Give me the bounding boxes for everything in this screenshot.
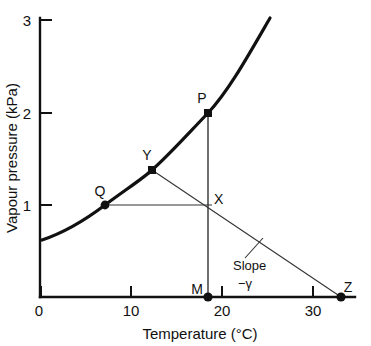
x-tick-label-10: 10 — [123, 302, 140, 319]
marker-point-Q — [101, 201, 110, 210]
x-tick-label-20: 20 — [214, 302, 231, 319]
y-tick-label-3: 3 — [23, 12, 31, 29]
point-label-M: M — [191, 281, 203, 297]
point-label-Y: Y — [142, 147, 152, 163]
y-axis-title: Vapour pressure (kPa) — [3, 83, 20, 233]
slope-leader-line — [245, 238, 263, 258]
y-tick-label-2: 2 — [23, 105, 31, 122]
chart-canvas: 3 2 1 0 10 20 30 Temperature (°C) Vapour… — [0, 0, 371, 346]
x-axis-title: Temperature (°C) — [142, 325, 257, 342]
slope-annotation-line1: Slope — [233, 258, 266, 273]
slope-annotation-line2: −γ — [238, 276, 253, 291]
slope-annotation: Slope −γ — [233, 258, 266, 291]
vapour-pressure-chart: 3 2 1 0 10 20 30 Temperature (°C) Vapour… — [0, 0, 371, 346]
point-label-X: X — [214, 191, 224, 207]
point-label-Q: Q — [95, 183, 106, 199]
marker-point-Y — [148, 166, 156, 174]
y-axis-ticks — [40, 20, 52, 205]
marker-point-M — [203, 292, 212, 301]
vapour-pressure-curve — [42, 18, 270, 240]
x-tick-label-0: 0 — [35, 302, 43, 319]
point-label-Z: Z — [344, 279, 353, 295]
axes-group — [40, 18, 355, 297]
x-tick-label-30: 30 — [305, 302, 322, 319]
point-label-P: P — [197, 90, 206, 106]
y-tick-label-1: 1 — [23, 197, 31, 214]
data-point-labels: P Y Q X M Z — [95, 90, 353, 297]
x-axis-tick-labels: 0 10 20 30 — [35, 302, 322, 319]
x-axis-ticks — [41, 286, 313, 297]
marker-point-P — [204, 109, 212, 117]
y-axis-tick-labels: 3 2 1 — [23, 12, 31, 214]
